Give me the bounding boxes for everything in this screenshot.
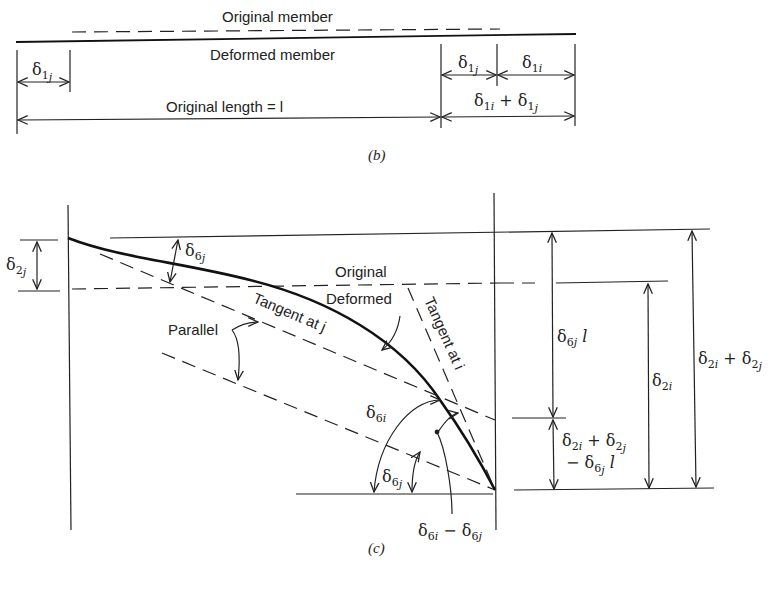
delta-1i-label: δ1i [522,53,542,75]
parallel-label: Parallel [168,321,218,338]
delta-6i-label: δ6i [366,403,386,425]
delta-1j-right-label: δ1j [458,53,479,77]
delta-6j-bottom-label: δ6j [382,467,403,491]
original-member-line [72,29,500,32]
tangent-at-j-label: Tangent at j [251,289,329,335]
original-member-label: Original member [222,8,333,25]
delta-sum-dimension [442,116,574,117]
parallel-arrow-lower [232,330,239,380]
delta-1j-left-label: δ1j [32,60,53,84]
structural-deformation-diagram: Original member Deformed member δ1j δ1j … [0,0,780,599]
deformed-label: Deformed [326,290,392,307]
deformed-pointer-arrow [382,316,400,350]
delta-6j-top-dimension [170,240,178,282]
delta-diff-label: δ6i − δ6j [418,521,482,543]
original-length-label: Original length = l [166,98,283,115]
figure-c-caption: (c) [368,540,385,557]
tangent-at-i-label: Tangent at i [421,294,468,372]
delta-2j-label: δ2j [6,255,27,279]
deformed-member-line [16,34,576,42]
delta-6j-top-label: δ6j [185,241,206,265]
figure-b-caption: (b) [368,147,386,164]
delta-2i-dimension [648,284,649,488]
left-support-line [68,205,71,530]
tangent-at-j-line [100,254,495,420]
top-reference-line [110,229,710,238]
delta-2i-label: δ2i [652,371,672,393]
deformed-member-label: Deformed member [210,46,335,63]
original-label: Original [335,263,387,280]
delta-2i-plus-2j-dimension [692,231,696,487]
right-support-line [494,193,496,530]
delta-2i-top-line [556,281,668,283]
remainder-dimension [553,420,554,489]
delta-2i-plus-2j-label: δ2i + δ2j [698,349,762,373]
delta-diff-leader [437,432,452,514]
delta-6j-l-dimension [552,233,553,417]
figure-b: Original member Deformed member δ1j δ1j … [16,8,576,164]
remainder-line2: − δ6j l [566,453,615,477]
delta-sum-label: δ1i + δ1j [474,91,538,115]
parallel-arrow-upper [232,322,258,330]
deformed-curve [68,238,495,490]
bottom-reference-line-right [514,488,714,490]
figure-c: δ2j δ6j Original Deformed Tangent at j T… [6,193,762,557]
original-length-dimension [18,117,440,120]
remainder-line1: δ2i + δ2j [562,431,626,455]
tangent-at-i-line [408,288,495,490]
delta-6j-l-label: δ6j l [557,327,587,349]
original-position-line [72,283,500,289]
